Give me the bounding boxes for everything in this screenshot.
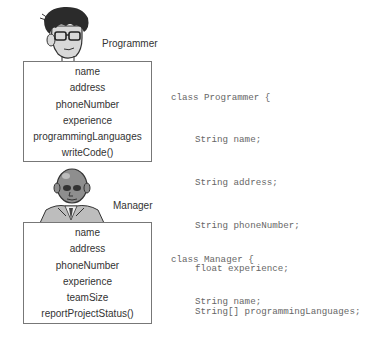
manager-code-block: class Manager { String name; String addr… xyxy=(171,224,355,337)
field-address: address xyxy=(24,80,151,96)
programmer-class-box: name address phoneNumber experience prog… xyxy=(23,61,152,162)
field-name: name xyxy=(24,64,151,80)
code-line: String address; xyxy=(171,176,360,190)
field-experience: experience xyxy=(24,274,151,290)
manager-class-box: name address phoneNumber experience team… xyxy=(23,222,152,324)
code-line: String name; xyxy=(171,295,355,309)
field-phone-number: phoneNumber xyxy=(24,97,151,113)
code-class-header: class Programmer { xyxy=(171,91,360,105)
method-report-project-status: reportProjectStatus() xyxy=(24,306,151,322)
field-name: name xyxy=(24,225,151,241)
method-write-code: writeCode() xyxy=(24,145,151,161)
field-programming-languages: programmingLanguages xyxy=(24,129,151,145)
manager-role-label: Manager xyxy=(113,200,152,211)
programmer-avatar-icon xyxy=(36,4,96,62)
field-address: address xyxy=(24,241,151,257)
programmer-role-label: Programmer xyxy=(102,38,158,49)
field-phone-number: phoneNumber xyxy=(24,258,151,274)
code-line: String name; xyxy=(171,133,360,147)
field-experience: experience xyxy=(24,113,151,129)
manager-avatar-icon xyxy=(36,168,106,223)
code-class-header: class Manager { xyxy=(171,253,355,267)
field-team-size: teamSize xyxy=(24,290,151,306)
